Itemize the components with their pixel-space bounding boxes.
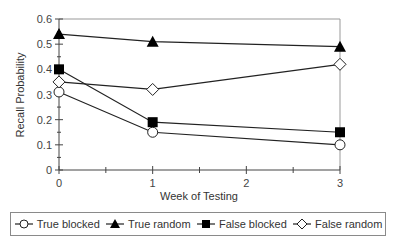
diamond-marker [53,76,65,88]
legend-label: True blocked [37,218,100,230]
legend-label: False random [315,218,382,230]
series-true-random [59,34,340,47]
x-tick-label: 0 [56,177,62,189]
x-tick-label: 3 [337,177,343,189]
triangle-marker [53,28,65,39]
series-false-blocked [59,69,340,132]
diamond-marker [334,58,346,70]
x-tick-label: 2 [243,177,249,189]
markers-true-random [53,28,346,52]
y-tick-label: 0.3 [37,89,52,101]
legend-item-false-blocked: False blocked [196,218,287,230]
markers-false-blocked [54,64,345,137]
y-tick-label: 0.5 [37,38,52,50]
y-tick-label: 0.4 [37,63,52,75]
series-false-random [59,64,340,89]
diamond-marker [297,219,307,229]
y-tick-label: 0.6 [37,13,52,25]
square-filled-icon [196,218,216,230]
legend-item-true-random: True random [105,218,191,230]
plot-frame [59,19,340,170]
square-marker [202,220,210,228]
markers-false-random [53,58,346,95]
y-tick-label: 0 [46,164,52,176]
square-marker [335,127,345,137]
series-true-blocked [59,92,340,145]
legend-item-true-blocked: True blocked [14,218,100,230]
legend-item-false-random: False random [292,218,382,230]
diamond-open-icon [292,218,312,230]
legend-label: True random [128,218,191,230]
y-axis-title: Recall Probability [14,52,26,137]
x-tick-label: 1 [150,177,156,189]
line-chart: 00.10.20.30.40.50.60123 Recall Probabili… [0,0,395,247]
circle-open-icon [14,218,34,230]
circle-marker [148,127,158,137]
diamond-marker [147,83,159,95]
circle-marker [335,140,345,150]
y-tick-label: 0.2 [37,114,52,126]
x-axis-title: Week of Testing [160,190,238,202]
legend: True blockedTrue randomFalse blockedFals… [10,212,386,236]
markers-true-blocked [54,87,345,150]
triangle-filled-icon [105,218,125,230]
square-marker [54,64,64,74]
circle-marker [20,220,28,228]
square-marker [148,117,158,127]
series-lines [53,28,346,150]
y-tick-label: 0.1 [37,139,52,151]
legend-label: False blocked [219,218,287,230]
axes: 00.10.20.30.40.50.60123 [37,13,343,189]
